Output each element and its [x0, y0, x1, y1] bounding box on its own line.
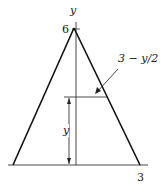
dimension-arrow-down-icon — [67, 158, 71, 164]
triangle-left-side — [13, 28, 74, 165]
apex-value-label: 6 — [62, 24, 69, 35]
triangle-diagram — [0, 0, 163, 189]
width-expression-label: 3 − y/2 — [118, 53, 158, 64]
dimension-arrow-up-icon — [67, 98, 71, 104]
triangle-right-side — [74, 28, 140, 165]
height-variable-label: y — [63, 124, 69, 137]
base-value-label: 3 — [137, 172, 144, 183]
y-axis-label: y — [70, 5, 76, 16]
